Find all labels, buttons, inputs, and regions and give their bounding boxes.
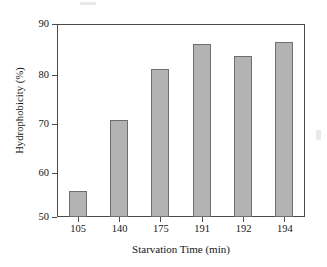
x-axis-tick-label: 140 [97,223,142,234]
x-axis-tick-label: 192 [221,223,266,234]
y-axis-tick-mark [52,24,57,25]
x-axis-tick-label: 105 [56,223,101,234]
bar-chart: Hydrophobicity (%) 50 60 70 80 90 105140… [0,0,327,267]
y-axis-tick: 60 [0,173,57,174]
bar [234,56,252,217]
y-axis-tick-label: 70 [39,116,50,131]
y-axis-title: Hydrophobicity (%) [14,41,25,181]
y-axis-tick-mark [52,75,57,76]
bar [275,42,293,217]
x-axis-tick-label: 194 [262,223,307,234]
y-axis-tick: 90 [0,24,57,25]
x-axis-tick-mark [202,217,203,222]
x-axis-tick: 140 [119,217,120,222]
x-axis-tick: 194 [284,217,285,222]
scan-artifact [80,2,96,5]
bar [151,69,169,217]
x-axis-tick-label: 175 [138,223,183,234]
scan-artifact [316,130,321,140]
y-axis-tick-label: 90 [39,16,50,31]
x-axis-tick-mark [243,217,244,222]
x-axis-tick: 191 [202,217,203,222]
bar [193,44,211,217]
y-axis-tick-mark [52,173,57,174]
plot-area [57,24,305,217]
y-axis-tick-label: 50 [39,209,50,224]
x-axis-tick-mark [284,217,285,222]
x-axis-tick-label: 191 [180,223,225,234]
x-axis-tick: 105 [78,217,79,222]
y-axis-tick-mark [52,217,57,218]
x-axis-tick: 175 [160,217,161,222]
x-axis-tick-mark [160,217,161,222]
bar [69,191,87,217]
y-axis-tick-mark [52,124,57,125]
x-axis-tick-mark [119,217,120,222]
x-axis-tick-mark [78,217,79,222]
y-axis-tick: 80 [0,75,57,76]
y-axis-tick: 70 [0,124,57,125]
x-axis-title: Starvation Time (min) [57,243,305,255]
y-axis-tick-label: 60 [39,165,50,180]
y-axis-tick: 50 [0,217,57,218]
y-axis-tick-label: 80 [39,67,50,82]
x-axis-tick: 192 [243,217,244,222]
bar [110,120,128,217]
